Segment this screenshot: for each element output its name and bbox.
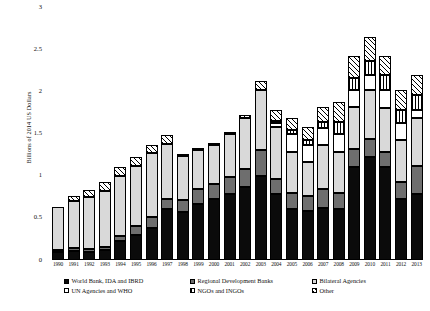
bar-segment bbox=[364, 61, 376, 74]
bar-segment bbox=[364, 139, 376, 158]
x-tick-label: 1993 bbox=[99, 262, 111, 267]
bar-segment bbox=[239, 169, 251, 188]
y-tick-label: 2.5 bbox=[16, 46, 42, 53]
legend-swatch-icon bbox=[64, 279, 69, 284]
bar-segment bbox=[302, 145, 314, 162]
bar-2005[interactable] bbox=[286, 118, 298, 260]
bar-1992[interactable] bbox=[83, 190, 95, 260]
bar-segment bbox=[302, 162, 314, 196]
x-tick-label: 2007 bbox=[317, 262, 329, 267]
legend-label: Other bbox=[320, 288, 334, 294]
y-tick-label: 1.5 bbox=[16, 130, 42, 137]
bar-segment bbox=[146, 145, 158, 153]
bar-1990[interactable] bbox=[52, 207, 64, 260]
legend-row: World Bank, IDA and IBRDRegional Develop… bbox=[64, 278, 394, 284]
bar-2012[interactable] bbox=[395, 90, 407, 260]
y-tick-label: 2 bbox=[16, 88, 42, 95]
x-tick-label: 2012 bbox=[395, 262, 407, 267]
x-tick-label: 2011 bbox=[379, 262, 391, 267]
bar-segment bbox=[177, 212, 189, 260]
bar-1993[interactable] bbox=[99, 182, 111, 260]
x-tick-label: 2010 bbox=[364, 262, 376, 267]
bar-1998[interactable] bbox=[177, 154, 189, 260]
bar-2001[interactable] bbox=[224, 132, 236, 260]
legend-item[interactable]: Other bbox=[312, 288, 394, 294]
bar-2008[interactable] bbox=[333, 102, 345, 261]
x-tick-label: 2006 bbox=[302, 262, 314, 267]
x-tick-label: 2001 bbox=[224, 262, 236, 267]
x-tick-label: 1997 bbox=[161, 262, 173, 267]
bar-segment bbox=[270, 110, 282, 120]
bar-segment bbox=[161, 144, 173, 200]
bar-2006[interactable] bbox=[302, 127, 314, 260]
bar-2009[interactable] bbox=[348, 56, 360, 260]
bar-2010[interactable] bbox=[364, 37, 376, 260]
bar-1995[interactable] bbox=[130, 157, 142, 260]
bar-segment bbox=[255, 90, 267, 151]
bar-segment bbox=[224, 177, 236, 194]
bar-segment bbox=[130, 166, 142, 227]
bar-2013[interactable] bbox=[411, 75, 423, 260]
bar-segment bbox=[333, 152, 345, 192]
bar-2000[interactable] bbox=[208, 143, 220, 260]
bar-2004[interactable] bbox=[270, 110, 282, 260]
bar-segment bbox=[239, 187, 251, 260]
plot-area bbox=[52, 7, 423, 260]
bar-segment bbox=[379, 75, 391, 90]
bar-segment bbox=[333, 193, 345, 210]
bar-segment bbox=[379, 56, 391, 75]
bar-segment bbox=[317, 145, 329, 189]
bar-2003[interactable] bbox=[255, 81, 267, 260]
bar-segment bbox=[286, 193, 298, 210]
bar-segment bbox=[411, 118, 423, 165]
bar-segment bbox=[52, 207, 64, 251]
y-tick-label: 0.5 bbox=[16, 214, 42, 221]
bar-segment bbox=[286, 118, 298, 130]
bar-segment bbox=[146, 217, 158, 228]
legend-item[interactable]: UN Agencies and WHO bbox=[64, 288, 190, 294]
legend-item[interactable]: Bilateral Agencies bbox=[312, 278, 394, 284]
bar-2007[interactable] bbox=[317, 107, 329, 260]
bar-segment bbox=[395, 140, 407, 182]
bar-segment bbox=[348, 107, 360, 149]
bar-segment bbox=[177, 156, 189, 200]
bar-segment bbox=[348, 167, 360, 260]
bar-segment bbox=[364, 37, 376, 61]
legend-item[interactable]: World Bank, IDA and IBRD bbox=[64, 278, 190, 284]
bar-segment bbox=[379, 90, 391, 109]
bar-segment bbox=[302, 196, 314, 211]
bar-segment bbox=[411, 95, 423, 110]
bar-2002[interactable] bbox=[239, 115, 251, 260]
bar-1997[interactable] bbox=[161, 135, 173, 260]
bar-1996[interactable] bbox=[146, 145, 158, 260]
bar-segment bbox=[177, 200, 189, 212]
bar-segment bbox=[317, 208, 329, 260]
bar-segment bbox=[411, 166, 423, 195]
bar-segment bbox=[83, 197, 95, 249]
legend-item[interactable]: NGOs and INGOs bbox=[190, 288, 312, 294]
legend-swatch-icon bbox=[64, 288, 69, 293]
bar-segment bbox=[161, 199, 173, 209]
bar-segment bbox=[395, 90, 407, 110]
bar-segment bbox=[379, 108, 391, 152]
y-tick-label: 3 bbox=[16, 4, 42, 11]
bar-1994[interactable] bbox=[114, 167, 126, 260]
x-tick-label: 1994 bbox=[114, 262, 126, 267]
bar-segment bbox=[99, 182, 111, 190]
bar-segment bbox=[333, 122, 345, 134]
y-tick-label: 1 bbox=[16, 172, 42, 179]
bar-segment bbox=[364, 90, 376, 139]
bar-2011[interactable] bbox=[379, 56, 391, 260]
bar-segment bbox=[130, 226, 142, 234]
bar-segment bbox=[192, 150, 204, 189]
bar-segment bbox=[364, 75, 376, 90]
bar-segment bbox=[208, 145, 220, 184]
bar-segment bbox=[302, 127, 314, 140]
bar-segment bbox=[411, 194, 423, 260]
legend-label: UN Agencies and WHO bbox=[72, 288, 133, 294]
legend-item[interactable]: Regional Development Banks bbox=[190, 278, 312, 284]
x-tick-label: 2005 bbox=[286, 262, 298, 267]
bar-segment bbox=[379, 152, 391, 167]
bar-1999[interactable] bbox=[192, 148, 204, 260]
bar-1991[interactable] bbox=[68, 196, 80, 260]
